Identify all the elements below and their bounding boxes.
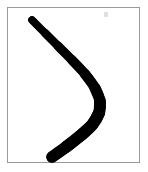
figure-root: Hand-drawn brush stroke A single thick b… <box>0 0 148 172</box>
brush-stroke-canvas <box>0 0 148 172</box>
brush-stroke-group <box>32 20 100 157</box>
speck-artifact <box>104 12 108 17</box>
